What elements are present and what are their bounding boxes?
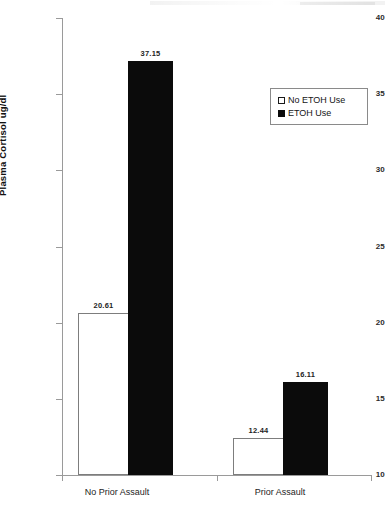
category-label-0: No Prior Assault bbox=[85, 487, 150, 497]
bar-value-label: 37.15 bbox=[141, 49, 161, 58]
legend-label-no-etoh-use: No ETOH Use bbox=[288, 95, 345, 105]
filled-square-icon bbox=[278, 110, 285, 117]
hollow-square-icon bbox=[278, 97, 285, 104]
category-label-1: Prior Assault bbox=[255, 487, 306, 497]
scan-artifact-secondary bbox=[300, 2, 375, 5]
bar-chart: Plasma Cortisol ug/dl 40353025201510 20.… bbox=[0, 0, 385, 509]
x-axis-tick bbox=[371, 475, 372, 481]
bar-value-label: 12.44 bbox=[249, 426, 269, 435]
bar-no-etoh-use-1 bbox=[233, 438, 284, 475]
legend: No ETOH Use ETOH Use bbox=[270, 88, 368, 125]
bar-value-label: 20.61 bbox=[94, 301, 114, 310]
legend-label-etoh-use: ETOH Use bbox=[288, 108, 331, 118]
legend-item-etoh-use: ETOH Use bbox=[278, 108, 361, 118]
bar-etoh-use-0 bbox=[128, 61, 173, 475]
x-axis-tick bbox=[62, 475, 63, 481]
bar-value-label: 16.11 bbox=[296, 370, 315, 379]
plot-area bbox=[62, 18, 372, 475]
legend-item-no-etoh-use: No ETOH Use bbox=[278, 95, 361, 105]
y-axis-title: Plasma Cortisol ug/dl bbox=[0, 36, 8, 196]
bar-no-etoh-use-0 bbox=[78, 313, 129, 475]
x-axis-tick bbox=[217, 475, 218, 481]
bar-etoh-use-1 bbox=[283, 382, 328, 475]
